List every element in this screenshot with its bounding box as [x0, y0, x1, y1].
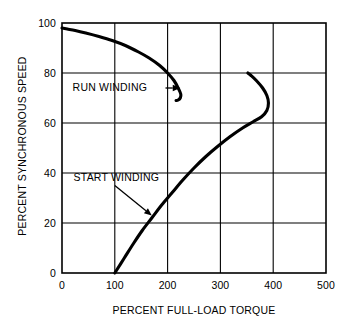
y-axis-title: PERCENT SYNCHRONOUS SPEED — [16, 21, 28, 271]
plot-frame — [62, 23, 326, 273]
x-tick-label-400: 400 — [257, 279, 289, 291]
y-tick-label-80: 80 — [28, 67, 56, 79]
y-tick-label-40: 40 — [28, 167, 56, 179]
x-axis-title: PERCENT FULL-LOAD TORQUE — [62, 304, 326, 316]
y-tick-label-60: 60 — [28, 117, 56, 129]
y-tick-label-100: 100 — [28, 17, 56, 29]
start-winding-annotation-label: START WINDING — [74, 171, 159, 183]
x-tick-label-200: 200 — [152, 279, 184, 291]
x-tick-label-300: 300 — [204, 279, 236, 291]
x-tick-label-500: 500 — [310, 279, 342, 291]
x-tick-label-100: 100 — [99, 279, 131, 291]
y-tick-label-0: 0 — [28, 267, 56, 279]
chart-figure: 100 80 60 40 20 0 0 100 200 300 400 500 … — [0, 0, 351, 326]
run-winding-annotation-label: RUN WINDING — [73, 81, 148, 93]
y-tick-label-20: 20 — [28, 217, 56, 229]
x-tick-label-0: 0 — [46, 279, 78, 291]
